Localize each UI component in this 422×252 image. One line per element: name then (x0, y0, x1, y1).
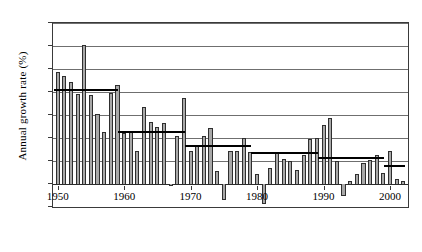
bar-1986 (295, 170, 299, 184)
x-tick-label-1980: 1980 (237, 190, 277, 202)
bar-1995 (355, 174, 359, 184)
bar-1968 (175, 136, 179, 184)
gridline (53, 46, 408, 47)
bar-1970 (189, 151, 193, 184)
bar-1989 (315, 138, 319, 184)
y-tick-mark-8 (48, 91, 52, 92)
bar-1961 (129, 131, 133, 184)
bar-1992 (335, 161, 339, 184)
bar-1951 (62, 76, 66, 184)
bar-1962 (135, 151, 139, 184)
bar-1987 (302, 155, 306, 184)
bar-1975 (222, 184, 226, 200)
y-tick-mark-10 (48, 68, 52, 69)
average-line-1969.6 (185, 145, 251, 147)
bar-1965 (155, 127, 159, 185)
bar-1957 (102, 132, 106, 184)
x-tick-label-1990: 1990 (304, 190, 344, 202)
bar-1976 (228, 151, 232, 184)
bar-1959 (115, 85, 119, 184)
bar-1954 (82, 45, 86, 184)
gridline (53, 23, 408, 24)
average-line-1979.6 (251, 152, 317, 154)
y-tick-mark-2 (48, 160, 52, 161)
y-tick-mark-12 (48, 45, 52, 46)
y-axis-title: Annual growth rate (%) (16, 21, 28, 191)
x-tick-mark-2000 (390, 186, 391, 190)
gridline (53, 92, 408, 93)
bar-1991 (328, 118, 332, 184)
average-line-1989.6 (318, 157, 384, 159)
x-tick-mark-1990 (324, 186, 325, 190)
bar-1988 (308, 139, 312, 184)
bar-2000 (388, 151, 392, 184)
y-tick-mark-0 (48, 183, 52, 184)
average-line-1959.6 (118, 131, 184, 133)
bar-1956 (95, 114, 99, 184)
bar-1971 (195, 145, 199, 184)
bar-1985 (288, 161, 292, 184)
average-line-1999.6 (384, 165, 405, 167)
bar-1963 (142, 107, 146, 184)
x-tick-mark-1970 (191, 186, 192, 190)
bar-1979 (248, 152, 252, 184)
bar-1973 (208, 128, 212, 184)
x-tick-mark-1950 (58, 186, 59, 190)
bar-1958 (109, 93, 113, 184)
y-tick-mark--2 (48, 206, 52, 207)
x-tick-label-1970: 1970 (171, 190, 211, 202)
bar-1972 (202, 136, 206, 184)
gridline (53, 69, 408, 70)
bar-2002 (401, 181, 405, 184)
y-tick-mark-4 (48, 137, 52, 138)
y-tick-mark-6 (48, 114, 52, 115)
bar-1953 (76, 94, 80, 184)
x-tick-mark-1980 (257, 186, 258, 190)
x-tick-label-1950: 1950 (38, 190, 78, 202)
x-tick-label-1960: 1960 (104, 190, 144, 202)
bar-1990 (322, 125, 326, 184)
bar-1969 (182, 98, 186, 184)
bar-1984 (282, 159, 286, 184)
bar-1980 (255, 174, 259, 184)
plot-area (52, 22, 409, 208)
bar-1955 (89, 95, 93, 184)
bar-2001 (395, 179, 399, 184)
average-line-1950 (54, 89, 118, 91)
y-tick-mark-14 (48, 22, 52, 23)
bar-1999 (381, 173, 385, 185)
bar-1996 (361, 163, 365, 184)
bar-1952 (69, 82, 73, 184)
x-tick-label-2000: 2000 (370, 190, 410, 202)
bar-1983 (275, 152, 279, 184)
bar-1982 (268, 168, 272, 184)
bar-1967 (169, 184, 173, 186)
bar-1998 (375, 155, 379, 184)
gridline (53, 115, 408, 116)
plot-inner (53, 23, 408, 207)
gridline (53, 138, 408, 139)
bar-1974 (215, 171, 219, 184)
bar-1994 (348, 181, 352, 184)
bar-1977 (235, 151, 239, 184)
growth-rate-bar-chart: Annual growth rate (%) -202468101214 195… (0, 0, 422, 252)
x-tick-mark-1960 (124, 186, 125, 190)
bar-1960 (122, 133, 126, 184)
bar-1997 (368, 160, 372, 184)
zero-axis-line (53, 184, 408, 185)
